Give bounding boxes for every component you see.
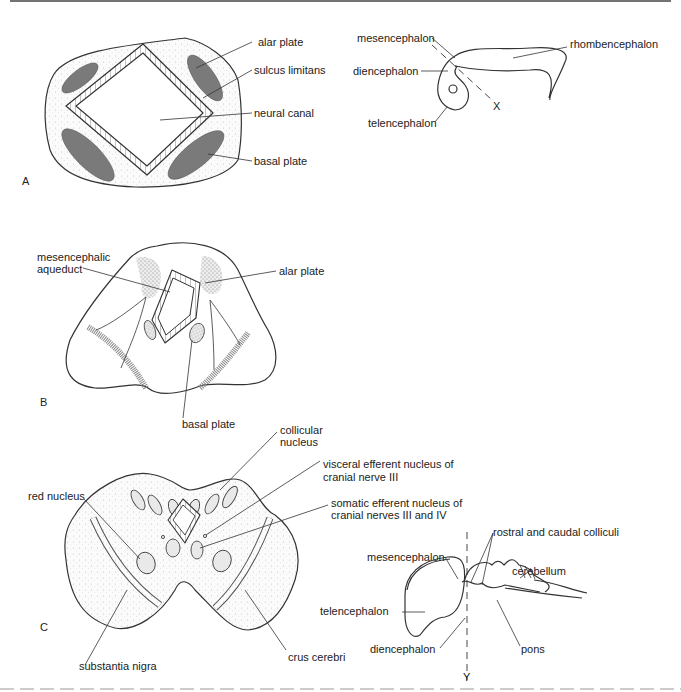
label-mesencephalon-a: mesencephalon xyxy=(357,32,435,44)
somatic-efferent-nucleus-right xyxy=(191,541,203,559)
cut-off-caption xyxy=(0,686,681,692)
rhombencephalon-outline xyxy=(455,48,566,100)
panel-c: collicular nucleus visceral efferent nuc… xyxy=(28,424,463,672)
section-marker-y: Y xyxy=(463,671,471,683)
label-visceral-efferent-line2: cranial nerve III xyxy=(323,471,398,483)
label-visceral-efferent-line1: visceral efferent nucleus of xyxy=(323,458,455,470)
label-diencephalon-a: diencephalon xyxy=(353,65,418,77)
panel-b: mesencephalic aqueduct alar plate basal … xyxy=(37,243,324,430)
panel-letter-b: B xyxy=(40,396,47,408)
label-pons: pons xyxy=(521,643,545,655)
label-collicular-line2: nucleus xyxy=(280,436,318,448)
label-basal-plate-a: basal plate xyxy=(254,155,307,167)
panel-c-inset: rostral and caudal colliculi mesencephal… xyxy=(320,526,619,683)
label-basal-plate-b: basal plate xyxy=(182,418,235,430)
label-mesencephalic-line2: aqueduct xyxy=(37,263,82,275)
panel-letter-a: A xyxy=(22,175,30,187)
label-rhombencephalon: rhombencephalon xyxy=(570,38,658,50)
panel-c-outline xyxy=(65,473,298,630)
label-collicular-line1: collicular xyxy=(280,424,323,436)
label-mesencephalic-line1: mesencephalic xyxy=(37,251,111,263)
figure-canvas: alar plate sulcus limitans neural canal … xyxy=(0,0,681,692)
caption-text-fragment xyxy=(0,688,681,690)
label-rostral-caudal-colliculi: rostral and caudal colliculi xyxy=(493,526,619,538)
label-sulcus-limitans: sulcus limitans xyxy=(254,64,326,76)
visceral-efferent-nucleus-left xyxy=(161,535,164,538)
section-marker-x: X xyxy=(493,100,501,112)
label-mesencephalon-c: mesencephalon xyxy=(367,551,445,563)
label-telencephalon-c: telencephalon xyxy=(320,605,389,617)
somatic-efferent-nucleus-left xyxy=(166,539,180,557)
label-somatic-efferent-line2: cranial nerves III and IV xyxy=(331,509,447,521)
label-cerebellum: cerebellum xyxy=(512,565,566,577)
cord-upper xyxy=(534,580,587,593)
cord-lower xyxy=(505,588,582,598)
telencephalon-rim xyxy=(407,559,450,590)
label-alar-plate-b: alar plate xyxy=(279,265,324,277)
panel-letter-c: C xyxy=(40,621,48,633)
midbrain-development-figure: alar plate sulcus limitans neural canal … xyxy=(0,0,681,692)
label-somatic-efferent-line1: somatic efferent nucleus of xyxy=(331,497,463,509)
label-neural-canal: neural canal xyxy=(254,107,314,119)
eye-cup xyxy=(449,85,457,93)
label-crus-cerebri: crus cerebri xyxy=(288,651,345,663)
label-substantia-nigra: substantia nigra xyxy=(79,660,158,672)
label-telencephalon-a: telencephalon xyxy=(368,117,437,129)
label-red-nucleus: red nucleus xyxy=(28,490,85,502)
panel-a-inset: mesencephalon diencephalon telencephalon… xyxy=(353,32,658,129)
label-alar-plate-a: alar plate xyxy=(258,36,303,48)
telencephalon-outline xyxy=(405,557,465,636)
label-diencephalon-c: diencephalon xyxy=(370,643,435,655)
panel-a: alar plate sulcus limitans neural canal … xyxy=(22,36,326,188)
